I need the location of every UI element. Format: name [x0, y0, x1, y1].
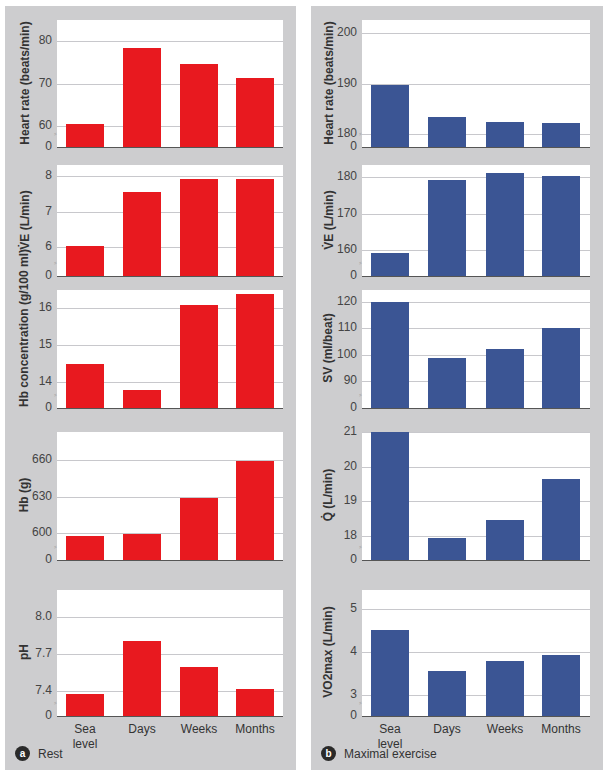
gridline [362, 609, 590, 610]
plot-area [57, 290, 283, 409]
caption-exercise: b Maximal exercise [321, 746, 437, 761]
bar-months [542, 655, 580, 717]
axis-break-icon: ⸗ [359, 129, 362, 138]
y-axis-label: SV (ml/beat) [321, 289, 335, 407]
bar-days [428, 117, 466, 147]
bar-sea-level [371, 253, 409, 276]
axis-break-icon: ⸗ [359, 542, 362, 551]
bar-months [542, 123, 580, 147]
bar-days [428, 180, 466, 276]
plot-area [362, 165, 590, 277]
y-axis-label: Hb (g) [17, 431, 31, 559]
caption-rest: a Rest [15, 746, 63, 761]
x-category-label: Weeks [169, 722, 229, 737]
bar-days [428, 538, 466, 560]
caption-exercise-label: Maximal exercise [344, 747, 437, 761]
plot-area [362, 432, 590, 561]
gridline [57, 617, 283, 618]
bar-weeks [486, 520, 524, 560]
bar-sea-level [66, 694, 104, 716]
bar-weeks [180, 498, 218, 560]
y-axis-label: VO2max (L/min) [321, 589, 335, 715]
bar-weeks [486, 661, 524, 716]
x-category-label: Months [531, 722, 591, 737]
x-category-label: Weeks [475, 722, 535, 737]
gridline [57, 176, 283, 177]
bar-sea-level [371, 85, 409, 147]
panel-b-badge: b [321, 746, 336, 761]
bar-months [236, 179, 274, 276]
plot-area [57, 165, 283, 277]
bar-days [123, 534, 161, 560]
bar-days [428, 671, 466, 716]
plot-area [362, 20, 590, 148]
bar-sea-level [66, 536, 104, 560]
x-category-label: Sea level [55, 722, 115, 752]
bar-weeks [486, 349, 524, 408]
plot-area [362, 290, 590, 409]
bar-weeks [180, 667, 218, 716]
y-axis-label: Heart rate (beats/min) [321, 19, 335, 146]
bar-sea-level [371, 432, 409, 560]
x-category-label: Days [112, 722, 172, 737]
x-category-label: Days [417, 722, 477, 737]
y-axis-label: V̇E (L/min) [321, 164, 335, 275]
plot-area [57, 20, 283, 148]
bar-sea-level [371, 630, 409, 716]
bar-weeks [180, 179, 218, 276]
axis-break-icon: ⸗ [359, 390, 362, 399]
y-axis-label: Hb concentration (g/100 ml) [17, 289, 31, 407]
bar-months [542, 176, 580, 276]
axis-break-icon: ⸗ [54, 129, 57, 138]
bar-sea-level [66, 246, 104, 276]
bar-weeks [486, 173, 524, 276]
y-axis-label: Q̇ (L/min) [321, 431, 335, 559]
y-axis-label: pH [17, 589, 31, 715]
bar-months [236, 294, 274, 408]
bar-days [123, 641, 161, 716]
caption-rest-label: Rest [38, 747, 63, 761]
bar-sea-level [66, 364, 104, 408]
axis-break-icon: ⸗ [359, 258, 362, 267]
y-axis-label: Heart rate (beats/min) [17, 19, 31, 146]
bar-months [236, 689, 274, 716]
bar-months [542, 328, 580, 408]
bar-weeks [486, 122, 524, 147]
bar-sea-level [371, 302, 409, 408]
gridline [362, 33, 590, 34]
bar-months [236, 461, 274, 560]
bar-days [123, 192, 161, 276]
bar-days [123, 390, 161, 408]
bar-months [236, 78, 274, 147]
panel-a-badge: a [15, 746, 30, 761]
plot-area [362, 590, 590, 717]
gridline [57, 41, 283, 42]
bar-weeks [180, 305, 218, 408]
bar-months [542, 479, 580, 560]
gridline [57, 654, 283, 655]
axis-break-icon: ⸗ [54, 390, 57, 399]
bar-sea-level [66, 124, 104, 147]
bar-days [123, 48, 161, 147]
axis-break-icon: ⸗ [54, 542, 57, 551]
axis-break-icon: ⸗ [54, 258, 57, 267]
bar-weeks [180, 64, 218, 147]
axis-break-icon: ⸗ [359, 698, 362, 707]
bar-days [428, 358, 466, 408]
plot-area [57, 432, 283, 561]
plot-area [57, 590, 283, 717]
axis-break-icon: ⸗ [54, 698, 57, 707]
x-category-label: Months [225, 722, 285, 737]
